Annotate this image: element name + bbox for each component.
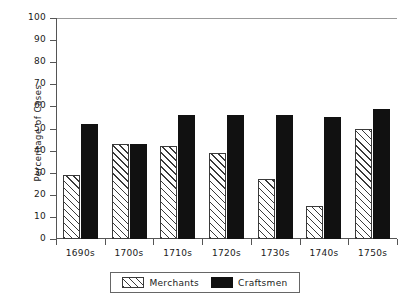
x-axis-tick [56,239,57,245]
bar-merchants-1710s [160,146,177,239]
bar-group [251,18,300,239]
y-axis-tick-label: 90 [6,35,46,44]
bar-merchants-1690s [63,175,80,239]
bar-merchants-1720s [209,153,226,239]
x-axis-tick [105,239,106,245]
bar-group [300,18,349,239]
bar-craftsmen-1710s [178,115,195,239]
bar-craftsmen-1730s [276,115,293,239]
x-axis-tick [251,239,252,245]
legend-label-merchants: Merchants [149,278,199,288]
y-axis-tick-label: 40 [6,146,46,155]
bar-merchants-1730s [258,179,275,239]
bar-chart: Percentage of Cases 01020304050607080901… [0,0,417,302]
x-axis-tick [300,239,301,245]
bar-craftsmen-1750s [373,109,390,239]
bar-group [348,18,397,239]
bar-group [202,18,251,239]
legend: Merchants Craftsmen [110,272,300,293]
hatched-swatch-icon [122,277,144,288]
y-axis-tick-label: 50 [6,124,46,133]
bar-group [153,18,202,239]
bar-craftsmen-1690s [81,124,98,239]
y-axis-tick-label: 0 [6,234,46,243]
y-axis-tick-label: 60 [6,101,46,110]
x-axis-tick-label: 1750s [343,248,403,258]
x-axis-tick [153,239,154,245]
y-axis-tick-label: 100 [6,13,46,22]
x-axis-tick [348,239,349,245]
bar-merchants-1700s [112,144,129,239]
y-axis-tick-label: 70 [6,79,46,88]
x-axis-tick [397,239,398,245]
bars-layer [56,18,397,239]
bar-merchants-1740s [306,206,323,239]
bar-group [56,18,105,239]
y-axis-tick-label: 20 [6,190,46,199]
bar-group [105,18,154,239]
y-axis-tick-label: 30 [6,168,46,177]
bar-craftsmen-1740s [324,117,341,239]
solid-black-swatch-icon [211,277,233,288]
y-axis-tick-label: 10 [6,212,46,221]
legend-entry-merchants: Merchants [122,277,199,288]
bar-merchants-1750s [355,129,372,240]
x-axis-tick [202,239,203,245]
legend-entry-craftsmen: Craftsmen [211,277,287,288]
legend-label-craftsmen: Craftsmen [238,278,287,288]
bar-craftsmen-1700s [130,144,147,239]
bar-craftsmen-1720s [227,115,244,239]
y-axis-tick-label: 80 [6,57,46,66]
